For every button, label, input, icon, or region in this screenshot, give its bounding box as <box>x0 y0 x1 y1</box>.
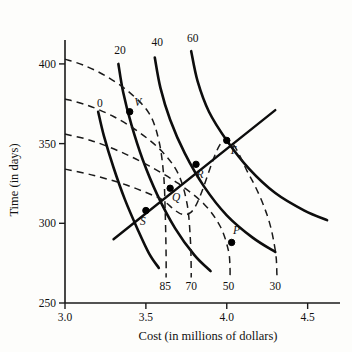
data-point-V[interactable] <box>127 109 133 115</box>
y-tick-label-350: 350 <box>39 138 57 150</box>
x-tick-label-3.0: 3.0 <box>58 311 73 323</box>
tradeoff-line-layer <box>114 110 276 239</box>
y-axis-title: Time (in days) <box>7 143 21 216</box>
y-tick-label-250: 250 <box>39 297 57 309</box>
data-point-T[interactable] <box>224 137 230 143</box>
solid-curve-label-0: 0 <box>97 97 103 109</box>
data-point-R[interactable] <box>193 161 199 167</box>
dashed-curve-label-70: 70 <box>185 280 197 292</box>
solid-curve-label-60: 60 <box>187 32 199 44</box>
x-axis-title: Cost (in millions of dollars) <box>139 329 278 343</box>
x-tick-label-4.0: 4.0 <box>220 311 235 323</box>
dashed-curve-label-30: 30 <box>270 280 282 292</box>
cost-time-tradeoff-chart: 3.03.54.04.5 250300350400 PQRSTV 0204060… <box>0 0 352 352</box>
x-axis-ticks: 3.03.54.04.5 <box>58 303 315 323</box>
y-axis-ticks: 250300350400 <box>39 58 65 309</box>
solid-curve-0 <box>98 112 159 268</box>
dashed-curve-50 <box>65 134 230 277</box>
data-point-S[interactable] <box>143 207 149 213</box>
x-tick-label-4.5: 4.5 <box>300 311 315 323</box>
data-point-markers: PQRSTV <box>127 96 241 246</box>
dashed-curve-label-50: 50 <box>223 280 235 292</box>
y-tick-label-400: 400 <box>39 58 57 70</box>
solid-curve-label-40: 40 <box>151 36 163 48</box>
tradeoff-line <box>114 110 276 239</box>
data-point-label-P: P <box>232 224 240 236</box>
y-tick-label-300: 300 <box>39 217 57 229</box>
data-point-label-S: S <box>140 215 146 227</box>
data-point-label-V: V <box>134 96 143 108</box>
dashed-curve-label-85: 85 <box>160 280 172 292</box>
data-point-label-Q: Q <box>172 191 181 203</box>
dashed-curve-30 <box>65 140 277 278</box>
solid-curve-label-20: 20 <box>114 44 126 56</box>
data-point-P[interactable] <box>228 239 234 245</box>
solid-curve-60 <box>191 51 327 220</box>
chart-container: 3.03.54.04.5 250300350400 PQRSTV 0204060… <box>0 0 352 352</box>
data-point-label-R: R <box>196 168 204 180</box>
x-tick-label-3.5: 3.5 <box>139 311 154 323</box>
dashed-curve-85 <box>65 59 166 277</box>
